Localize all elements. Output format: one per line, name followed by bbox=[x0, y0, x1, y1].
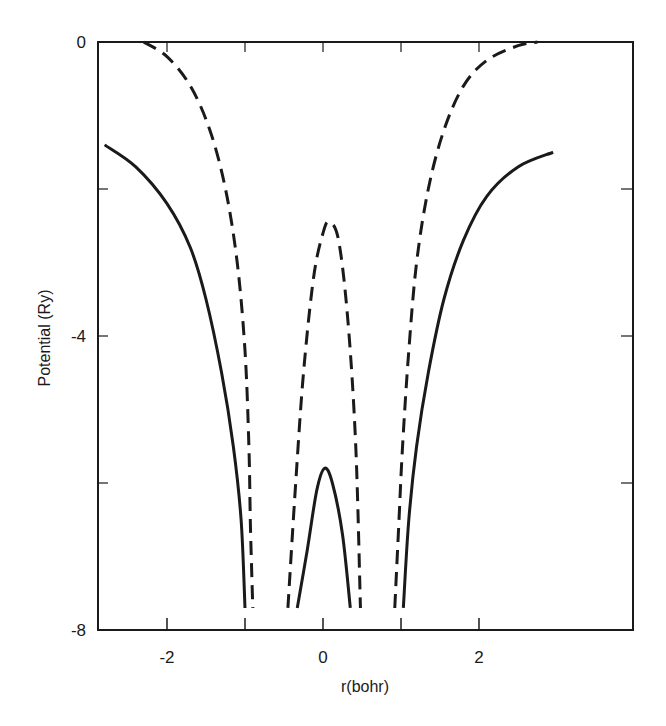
series-dashed-inner bbox=[288, 222, 361, 608]
x-axis-ticks: -202 bbox=[159, 42, 483, 667]
series-dashed-outer-right bbox=[395, 42, 538, 608]
y-axis-ticks: 0-4-8 bbox=[71, 33, 633, 640]
series-solid-inner bbox=[297, 468, 350, 608]
potential-chart: -202 0-4-8 r(bohr) Potential (Ry) bbox=[0, 0, 666, 726]
series-solid-outer-right bbox=[403, 152, 553, 608]
y-tick-label: 0 bbox=[77, 33, 86, 52]
y-tick-label: -8 bbox=[71, 621, 86, 640]
y-axis-label: Potential (Ry) bbox=[36, 290, 53, 387]
x-tick-label: -2 bbox=[159, 648, 174, 667]
plot-frame bbox=[98, 42, 633, 630]
y-tick-label: -4 bbox=[71, 327, 86, 346]
series-solid-outer-left bbox=[105, 145, 245, 608]
x-tick-label: 0 bbox=[318, 648, 327, 667]
x-axis-label: r(bohr) bbox=[341, 678, 389, 695]
series-dashed-outer-left bbox=[144, 42, 253, 608]
series-group bbox=[105, 42, 553, 608]
x-tick-label: 2 bbox=[474, 648, 483, 667]
